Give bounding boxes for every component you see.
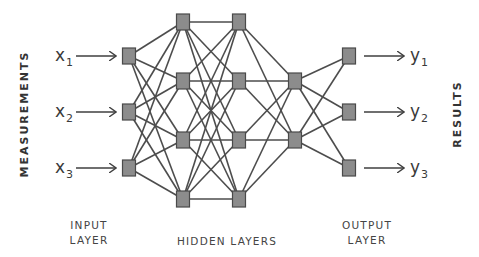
measurements-label: MEASUREMENTS [18, 51, 31, 178]
output-node-2 [343, 104, 356, 120]
output-label-y2: y2 [410, 101, 428, 125]
input-node-2 [123, 104, 136, 120]
output-label-y1: y1 [410, 45, 428, 69]
connection-edge [239, 22, 295, 81]
hidden-2-node-4 [233, 191, 246, 207]
hidden-3-node-2 [289, 132, 302, 148]
input-layer-caption-line1: INPUT [70, 219, 107, 231]
hidden-2-node-3 [233, 132, 246, 148]
input-label-x2: x2 [55, 101, 73, 125]
hidden-2-node-2 [233, 73, 246, 89]
hidden-1-node-1 [177, 14, 190, 30]
output-layer-caption-line2: LAYER [348, 234, 387, 246]
connection-edge [129, 22, 183, 56]
connection-edge [129, 168, 183, 199]
neural-network-diagram: x1 x2 x3 y1 y2 y3 MEASUREMENTS RESULTS I… [0, 0, 479, 257]
hidden-1-node-2 [177, 73, 190, 89]
hidden-1-node-3 [177, 132, 190, 148]
output-label-y3: y3 [410, 157, 428, 181]
connection-edge [295, 81, 349, 112]
neurons [123, 14, 356, 207]
output-layer-caption-line1: OUTPUT [342, 219, 392, 231]
connection-edge [295, 81, 349, 168]
input-label-x3: x3 [55, 157, 73, 181]
results-label: RESULTS [451, 80, 464, 147]
output-node-3 [343, 160, 356, 176]
hidden-1-node-4 [177, 191, 190, 207]
hidden-layers-caption: HIDDEN LAYERS [177, 235, 277, 247]
connection-edge [239, 140, 295, 199]
input-node-3 [123, 160, 136, 176]
hidden-3-node-1 [289, 73, 302, 89]
input-node-1 [123, 48, 136, 64]
output-node-1 [343, 48, 356, 64]
input-layer-caption-line2: LAYER [70, 234, 109, 246]
connections [129, 22, 349, 199]
input-label-x1: x1 [55, 45, 73, 69]
hidden-2-node-1 [233, 14, 246, 30]
